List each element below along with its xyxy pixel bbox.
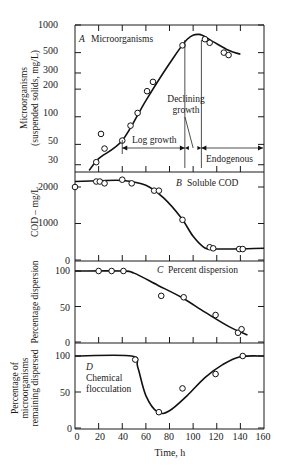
data-point [213, 371, 219, 377]
a-tick-100: 100 [43, 107, 58, 118]
data-point [121, 268, 127, 274]
panel-c-title: Percent dispersion [168, 265, 238, 275]
fit-curve-a [89, 34, 240, 170]
data-point [96, 268, 102, 274]
x-tick-100: 100 [186, 431, 201, 442]
panel-c-labels: 100 50 0 C Percent dispersion [55, 265, 238, 348]
panel-b-labels: 2000 1000 0 B Soluble COD [38, 178, 239, 266]
data-point [144, 88, 150, 94]
x-tick-labels: 0 20 40 60 80 100 120 140 160 [75, 431, 271, 442]
d-tick-0: 0 [67, 423, 72, 434]
a-tick-50: 50 [48, 135, 58, 146]
data-point [239, 326, 245, 332]
data-point [226, 52, 232, 58]
panel-d-labels: 100 50 0 D Chemical flocculation [55, 350, 132, 434]
x-axis-label: Time, h [155, 447, 186, 458]
a-tick-300: 300 [43, 64, 58, 75]
data-point [98, 131, 104, 137]
x-tick-160: 160 [256, 431, 271, 442]
y-axis-label-c: Percentage dispersion [30, 260, 40, 343]
data-point [93, 159, 99, 165]
b-tick-2000: 2000 [38, 181, 58, 192]
panel-d-title-2: flocculation [86, 384, 132, 394]
data-point [180, 386, 186, 392]
a-tick-30: 30 [48, 154, 58, 165]
x-tick-80: 80 [164, 431, 174, 442]
a-tick-200: 200 [43, 79, 58, 90]
data-point [72, 184, 78, 190]
fitted-curves [75, 34, 264, 413]
panel-d-title-1: Chemical [86, 373, 123, 383]
data-point [150, 79, 156, 85]
data-point [180, 217, 186, 223]
x-tick-20: 20 [95, 431, 105, 442]
data-point [102, 181, 108, 187]
y-axis-label-b: COD – mg/L [30, 187, 40, 237]
panel-b-letter: B [176, 178, 182, 188]
y-axis-label-a-1: Microorganisms [19, 67, 29, 129]
x-tick-140: 140 [233, 431, 248, 442]
fit-curve-b [75, 180, 264, 249]
data-point [180, 43, 186, 49]
endogenous-label: Endogenous [206, 154, 253, 164]
y-axis-label-d-1: Percentage of [10, 361, 20, 414]
data-points [72, 36, 245, 415]
c-tick-50: 50 [60, 302, 70, 313]
tick-marks [75, 25, 264, 429]
data-point [119, 177, 125, 183]
y-axis-label-d-3: remaining dispersed [30, 349, 40, 426]
x-tick-40: 40 [118, 431, 128, 442]
panel-d-letter: D [85, 362, 93, 372]
data-point [158, 293, 164, 299]
chart: 1000 500 300 200 100 50 30 A Microorgani… [0, 0, 282, 476]
data-point [213, 312, 219, 318]
data-point [132, 357, 138, 363]
panel-c-letter: C [157, 265, 164, 275]
data-point [135, 110, 141, 116]
y-axis-label-d-2: microorganisms [20, 357, 30, 418]
x-tick-0: 0 [75, 431, 80, 442]
y-axis-label-a-2: (suspended solids, mg/L) [30, 50, 41, 146]
b-tick-1000: 1000 [38, 217, 58, 228]
d-tick-100: 100 [55, 350, 70, 361]
plot-frame [75, 25, 264, 429]
data-point [102, 146, 108, 152]
data-point [207, 40, 213, 46]
declining-growth-leader [185, 117, 193, 148]
c-tick-100: 100 [55, 265, 70, 276]
declining-growth-label-1: Declining [167, 94, 205, 104]
data-point [240, 246, 246, 252]
data-point [240, 353, 246, 359]
fit-curve-c [75, 271, 247, 335]
data-point [129, 181, 135, 187]
a-tick-500: 500 [43, 45, 58, 56]
declining-growth-label-2: growth [173, 105, 200, 115]
a-tick-1000: 1000 [38, 19, 58, 30]
x-tick-120: 120 [209, 431, 224, 442]
panel-a-title: Microorganisms [91, 34, 153, 44]
c-tick-0: 0 [65, 337, 70, 348]
data-point [210, 246, 216, 252]
log-growth-label: Log growth [132, 135, 177, 145]
panel-a-letter: A [78, 34, 85, 44]
data-point [156, 188, 162, 194]
panel-b-title: Soluble COD [187, 178, 239, 188]
d-tick-50: 50 [60, 387, 70, 398]
data-point [109, 268, 115, 274]
x-tick-60: 60 [141, 431, 151, 442]
data-point [156, 409, 162, 415]
data-point [128, 123, 134, 129]
data-point [181, 294, 187, 300]
